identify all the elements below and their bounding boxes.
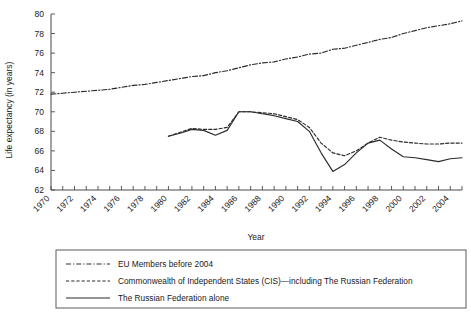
x-tick-label: 1982 bbox=[172, 193, 193, 214]
x-tick-label: 1976 bbox=[101, 193, 122, 214]
y-tick-label: 68 bbox=[35, 126, 45, 136]
x-tick-label: 2000 bbox=[383, 193, 404, 214]
y-tick-label: 66 bbox=[35, 146, 45, 156]
x-tick-label: 1996 bbox=[336, 193, 357, 214]
y-axis-tick-labels: 62646668707274767880 bbox=[35, 9, 45, 195]
x-tick-label: 2004 bbox=[430, 193, 451, 214]
x-axis-tick-marks bbox=[51, 186, 462, 190]
x-tick-label: 1994 bbox=[313, 193, 334, 214]
x-axis-tick-labels: 1970197219741976197819801982198419861988… bbox=[31, 193, 451, 214]
y-tick-label: 80 bbox=[35, 9, 45, 19]
x-axis-title: Year bbox=[247, 232, 264, 242]
x-tick-label: 1986 bbox=[219, 193, 240, 214]
life-expectancy-line-chart: Life expectancy (in years) 6264666870727… bbox=[0, 0, 471, 318]
x-tick-label: 1980 bbox=[148, 193, 169, 214]
chart-canvas: Life expectancy (in years) 6264666870727… bbox=[0, 0, 471, 318]
y-tick-label: 78 bbox=[35, 29, 45, 39]
x-tick-label: 1984 bbox=[195, 193, 216, 214]
x-tick-label: 1988 bbox=[242, 193, 263, 214]
y-axis-tick-marks bbox=[51, 14, 55, 190]
x-tick-label: 1978 bbox=[125, 193, 146, 214]
x-tick-label: 1974 bbox=[78, 193, 99, 214]
y-tick-label: 74 bbox=[35, 68, 45, 78]
x-tick-label: 1990 bbox=[266, 193, 287, 214]
y-tick-label: 76 bbox=[35, 48, 45, 58]
data-series-group bbox=[51, 21, 462, 172]
series-line-1 bbox=[51, 21, 462, 94]
legend-label-1: EU Members before 2004 bbox=[118, 259, 213, 269]
x-tick-label: 2002 bbox=[407, 193, 428, 214]
series-line-3 bbox=[168, 112, 462, 172]
x-tick-label: 1992 bbox=[289, 193, 310, 214]
y-axis-title: Life expectancy (in years) bbox=[4, 61, 14, 158]
legend-label-2: Commonwealth of Independent States (CIS)… bbox=[118, 276, 413, 286]
legend-entries: EU Members before 2004Commonwealth of In… bbox=[66, 259, 413, 303]
x-tick-label: 1998 bbox=[360, 193, 381, 214]
x-tick-label: 1970 bbox=[31, 193, 52, 214]
y-tick-label: 64 bbox=[35, 165, 45, 175]
y-tick-label: 72 bbox=[35, 87, 45, 97]
x-tick-label: 1972 bbox=[54, 193, 75, 214]
legend-label-3: The Russian Federation alone bbox=[118, 293, 230, 303]
y-tick-label: 70 bbox=[35, 107, 45, 117]
